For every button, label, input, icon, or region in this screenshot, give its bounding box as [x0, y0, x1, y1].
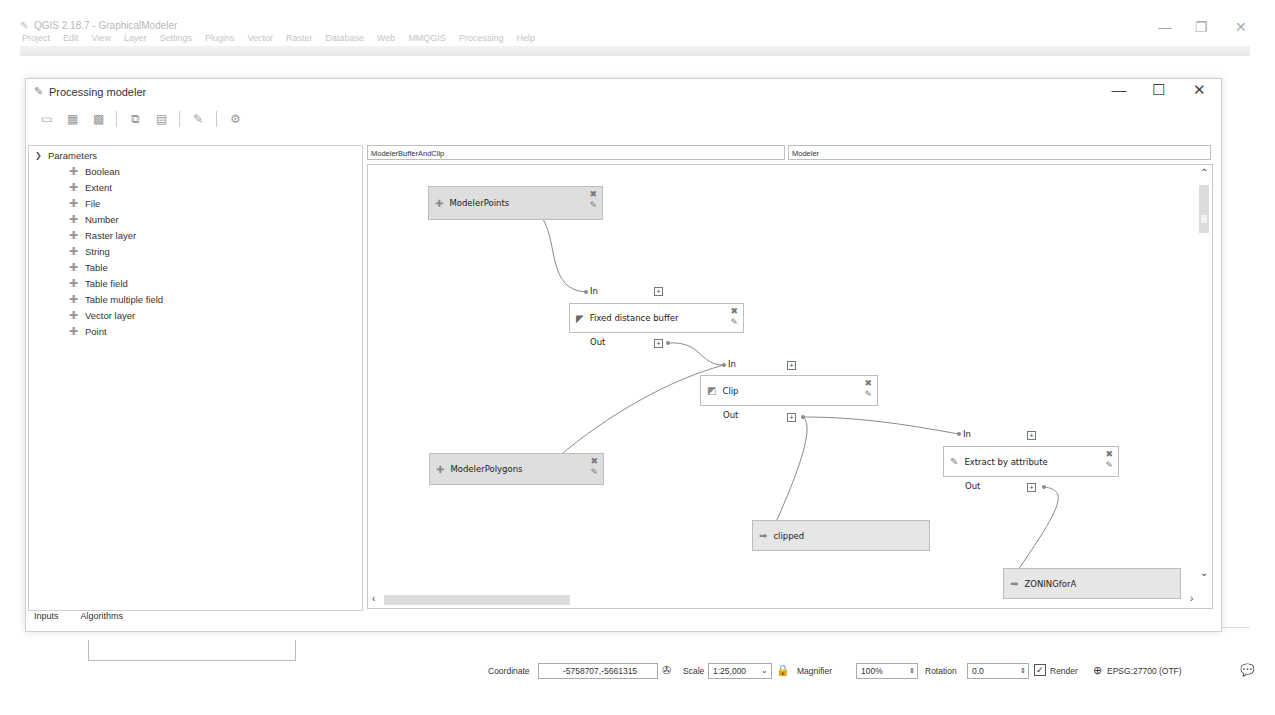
- messages-icon[interactable]: 💬: [1240, 663, 1255, 677]
- input-item-extent[interactable]: ✚Extent: [69, 182, 112, 193]
- scroll-right-icon[interactable]: ›: [1190, 593, 1193, 604]
- scale-select[interactable]: 1:25,000 ⌄: [708, 663, 772, 679]
- input-item-string[interactable]: ✚String: [69, 246, 110, 257]
- model-canvas[interactable]: ✚ ModelerPoints ✖✎ In + ◤ Fixed distance…: [367, 164, 1213, 609]
- menu-mmqgis[interactable]: MMQGIS: [408, 33, 446, 43]
- input-item-number[interactable]: ✚Number: [69, 214, 119, 225]
- app-restore-button[interactable]: ❐: [1195, 19, 1208, 35]
- dialog-minimize-button[interactable]: —: [1104, 81, 1134, 98]
- node-label: Clip: [722, 386, 738, 396]
- input-item-label: Point: [85, 326, 107, 337]
- crs-label[interactable]: EPSG:27700 (OTF): [1107, 666, 1182, 676]
- scroll-up-icon[interactable]: ⌃: [1200, 167, 1208, 178]
- node-modeler-polygons[interactable]: ✚ ModelerPolygons ✖✎: [429, 453, 604, 485]
- edit-node-icon[interactable]: ✎: [864, 389, 872, 400]
- expand-inputs-icon[interactable]: +: [787, 361, 796, 370]
- input-item-table[interactable]: ✚Table: [69, 262, 108, 273]
- expand-inputs-icon[interactable]: +: [1027, 431, 1036, 440]
- menu-vector[interactable]: Vector: [247, 33, 273, 43]
- expand-outputs-icon[interactable]: +: [787, 413, 796, 422]
- menu-plugins[interactable]: Plugins: [205, 33, 235, 43]
- spin-arrows-icon[interactable]: ⇕: [1020, 664, 1026, 678]
- render-checkbox[interactable]: ✓: [1034, 664, 1046, 676]
- scroll-down-icon[interactable]: ⌄: [1200, 567, 1208, 578]
- lock-scale-icon[interactable]: 🔒: [776, 664, 790, 677]
- open-model-icon[interactable]: ▭: [38, 111, 54, 127]
- input-item-label: String: [85, 246, 110, 257]
- coordinate-label: Coordinate: [488, 666, 530, 676]
- menu-edit[interactable]: Edit: [63, 33, 79, 43]
- expand-inputs-icon[interactable]: +: [654, 287, 663, 296]
- edit-help-icon[interactable]: ✎: [190, 111, 206, 127]
- save-as-model-icon[interactable]: ▩: [90, 111, 106, 127]
- node-clipped-output[interactable]: ➡ clipped: [752, 520, 930, 551]
- input-item-file[interactable]: ✚File: [69, 198, 100, 209]
- vertical-scrollbar[interactable]: ⌃ ⌄: [1198, 167, 1210, 587]
- save-model-icon[interactable]: ▦: [64, 111, 80, 127]
- delete-node-icon[interactable]: ✖: [590, 456, 598, 467]
- node-label: ModelerPoints: [449, 198, 509, 208]
- node-label: clipped: [773, 531, 804, 541]
- expand-outputs-icon[interactable]: +: [1027, 483, 1036, 492]
- tab-algorithms[interactable]: Algorithms: [81, 611, 124, 621]
- menu-project[interactable]: Project: [22, 33, 50, 43]
- node-modeler-points[interactable]: ✚ ModelerPoints ✖✎: [428, 186, 603, 220]
- dialog-close-button[interactable]: ✕: [1184, 81, 1214, 99]
- edit-node-icon[interactable]: ✎: [589, 200, 597, 211]
- expand-outputs-icon[interactable]: +: [654, 339, 663, 348]
- horizontal-scrollbar[interactable]: ‹ ›: [370, 593, 1210, 606]
- scale-value: 1:25,000: [713, 666, 746, 676]
- input-item-raster-layer[interactable]: ✚Raster layer: [69, 230, 136, 241]
- vertical-scroll-thumb[interactable]: [1199, 185, 1209, 233]
- export-image-icon[interactable]: ⧉: [127, 111, 143, 127]
- app-close-button[interactable]: ✕: [1235, 19, 1247, 35]
- toggle-extents-icon[interactable]: ✇: [662, 664, 671, 677]
- input-item-table-field[interactable]: ✚Table field: [69, 278, 128, 289]
- plus-icon: ✚: [69, 326, 78, 337]
- coordinate-input[interactable]: -5758707,-5661315: [538, 663, 658, 679]
- input-item-vector-layer[interactable]: ✚Vector layer: [69, 310, 135, 321]
- model-group-input[interactable]: Modeler: [788, 145, 1211, 160]
- node-extract-by-attribute[interactable]: ✎ Extract by attribute ✖✎: [943, 446, 1119, 477]
- node-clip[interactable]: ◩ Clip ✖✎: [700, 375, 878, 406]
- scroll-left-icon[interactable]: ‹: [372, 593, 375, 604]
- input-item-boolean[interactable]: ✚Boolean: [69, 166, 120, 177]
- menu-processing[interactable]: Processing: [459, 33, 504, 43]
- chevron-down-icon[interactable]: ❯: [35, 151, 42, 160]
- horizontal-scroll-thumb[interactable]: [384, 595, 570, 605]
- menu-raster[interactable]: Raster: [286, 33, 313, 43]
- menu-layer[interactable]: Layer: [124, 33, 147, 43]
- menu-help[interactable]: Help: [516, 33, 535, 43]
- menu-database[interactable]: Database: [326, 33, 365, 43]
- tab-inputs[interactable]: Inputs: [34, 611, 59, 621]
- export-python-icon[interactable]: ▤: [153, 111, 169, 127]
- buffer-icon: ◤: [576, 313, 584, 324]
- output-arrow-icon: ➡: [759, 530, 767, 541]
- delete-node-icon[interactable]: ✖: [1105, 449, 1113, 460]
- rotation-label: Rotation: [925, 666, 957, 676]
- crs-globe-icon[interactable]: ⊕: [1093, 664, 1102, 677]
- delete-node-icon[interactable]: ✖: [864, 378, 872, 389]
- model-name-input[interactable]: ModelerBufferAndClip: [367, 145, 785, 160]
- node-fixed-distance-buffer[interactable]: ◤ Fixed distance buffer ✖✎: [569, 303, 744, 333]
- delete-node-icon[interactable]: ✖: [589, 189, 597, 200]
- delete-node-icon[interactable]: ✖: [730, 306, 738, 317]
- menu-web[interactable]: Web: [377, 33, 395, 43]
- edit-node-icon[interactable]: ✎: [730, 317, 738, 328]
- app-menubar: Project Edit View Layer Settings Plugins…: [22, 33, 535, 43]
- spin-arrows-icon[interactable]: ⇕: [909, 664, 915, 678]
- processing-modeler-dialog: ✎ Processing modeler — ☐ ✕ ▭ ▦ ▩ ⧉ ▤ ✎ ⚙…: [25, 78, 1222, 632]
- rotation-spinbox[interactable]: 0.0 ⇕: [967, 663, 1029, 679]
- app-minimize-button[interactable]: —: [1158, 19, 1172, 35]
- menu-settings[interactable]: Settings: [159, 33, 192, 43]
- run-model-icon[interactable]: ⚙: [227, 111, 243, 127]
- dialog-maximize-button[interactable]: ☐: [1143, 81, 1173, 99]
- tree-root-parameters[interactable]: ❯ Parameters: [35, 150, 97, 161]
- edit-node-icon[interactable]: ✎: [590, 467, 598, 478]
- extract-icon: ✎: [950, 456, 958, 467]
- menu-view[interactable]: View: [92, 33, 111, 43]
- input-item-point[interactable]: ✚Point: [69, 326, 107, 337]
- magnifier-spinbox[interactable]: 100% ⇕: [856, 663, 918, 679]
- input-item-table-multiple-field[interactable]: ✚Table multiple field: [69, 294, 163, 305]
- edit-node-icon[interactable]: ✎: [1105, 460, 1113, 471]
